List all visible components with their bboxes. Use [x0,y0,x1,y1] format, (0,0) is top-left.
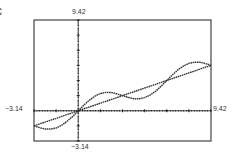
curves [34,62,211,129]
plot-frame [34,20,211,141]
graph-plot [0,0,232,158]
xmax-label: 9.42 [213,105,227,112]
curve-wave [34,62,211,129]
ymin-label: −3.14 [71,143,89,150]
ymax-label: 9.42 [72,8,86,15]
xmin-label: −3.14 [5,105,23,112]
axes [34,20,211,141]
